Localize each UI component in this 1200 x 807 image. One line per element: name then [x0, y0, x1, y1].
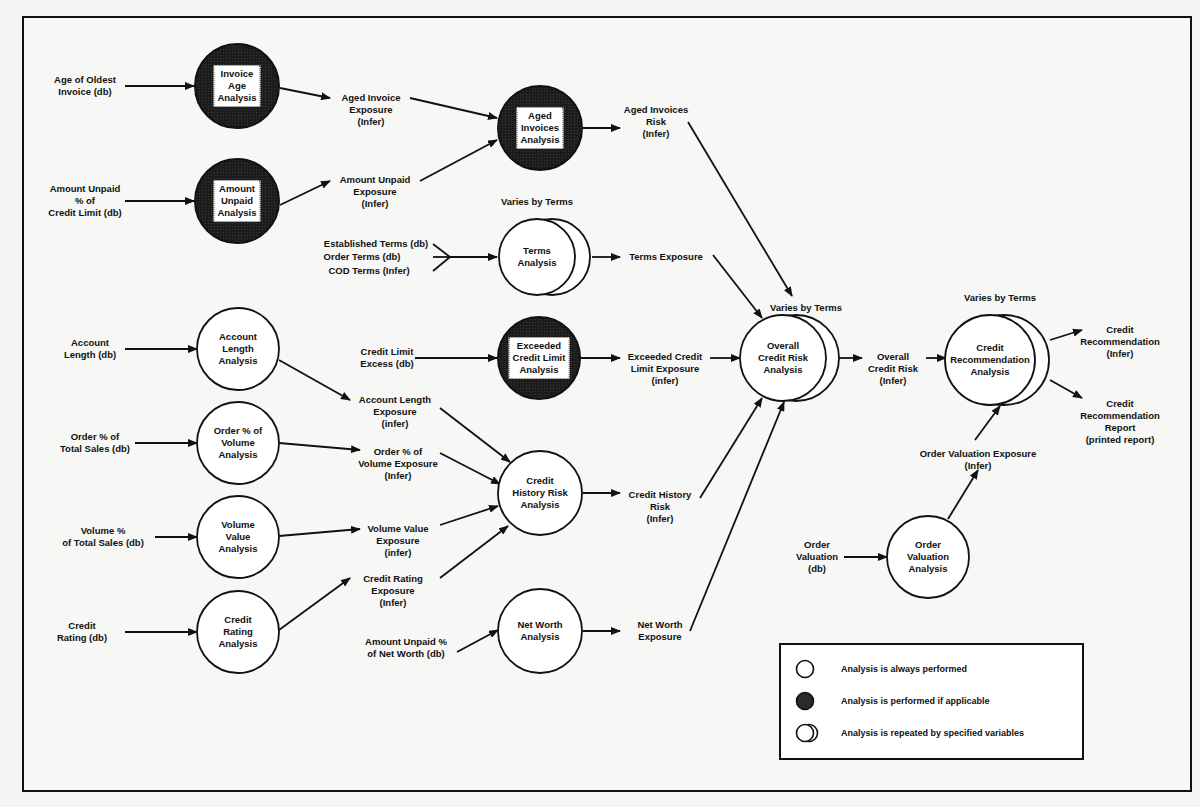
output-order-valuation-exposure: Order Valuation Exposure (Infer): [920, 448, 1037, 472]
double-circle-icon: [795, 723, 825, 743]
node-credit-rating-analysis: Credit Rating Analysis: [218, 614, 257, 650]
node-account-length-analysis: Account Length Analysis: [218, 331, 257, 367]
input-established-terms: Established Terms (db): [324, 238, 428, 250]
output-aged-invoice-exposure: Aged Invoice Exposure (Infer): [341, 92, 400, 128]
output-volume-value-exposure: Volume Value Exposure (infer): [367, 523, 428, 559]
legend-row-always: Analysis is always performed: [795, 659, 967, 679]
input-account-length: Account Length (db): [64, 337, 116, 361]
output-overall-credit-risk: Overall Credit Risk (Infer): [868, 351, 918, 387]
filled-circle-icon: [795, 691, 825, 711]
input-amount-unpaid-pct-net-worth: Amount Unpaid % of Net Worth (db): [365, 636, 447, 660]
input-age-oldest-invoice: Age of Oldest Invoice (db): [54, 74, 116, 98]
legend-always-label: Analysis is always performed: [841, 664, 967, 674]
output-account-length-exposure: Account Length Exposure (infer): [359, 394, 431, 430]
input-credit-limit-excess: Credit Limit Excess (db): [360, 346, 413, 370]
node-credit-recommendation-analysis: Credit Recommendation Analysis: [950, 342, 1030, 378]
recommendation-varies-note: Varies by Terms: [964, 292, 1036, 303]
always-nodes: [197, 308, 969, 673]
node-amount-unpaid-analysis: Amount Unpaid Analysis: [213, 180, 260, 222]
node-order-volume-analysis: Order % of Volume Analysis: [214, 425, 263, 461]
output-order-volume-exposure: Order % of Volume Exposure (Infer): [358, 446, 438, 482]
output-exceeded-credit-limit-exposure: Exceeded Credit Limit Exposure (infer): [628, 351, 702, 387]
legend-conditional-label: Analysis is performed if applicable: [841, 696, 990, 706]
output-amount-unpaid-exposure: Amount Unpaid Exposure (Infer): [340, 174, 411, 210]
input-order-pct-total-sales: Order % of Total Sales (db): [60, 431, 130, 455]
node-credit-history-risk-analysis: Credit History Risk Analysis: [512, 475, 567, 511]
output-credit-recommendation: Credit Recommendation (Infer): [1080, 324, 1160, 360]
input-volume-pct-total-sales: Volume % of Total Sales (db): [62, 525, 144, 549]
overall-varies-note: Varies by Terms: [770, 302, 842, 313]
input-credit-rating: Credit Rating (db): [57, 620, 107, 644]
node-net-worth-analysis: Net Worth Analysis: [517, 619, 562, 643]
output-credit-recommendation-report: Credit Recommendation Report (printed re…: [1080, 398, 1160, 446]
node-overall-credit-risk-analysis: Overall Credit Risk Analysis: [758, 340, 808, 376]
legend-row-conditional: Analysis is performed if applicable: [795, 691, 990, 711]
input-cod-terms: COD Terms (Infer): [328, 265, 409, 277]
legend: Analysis is always performed Analysis is…: [779, 643, 1084, 760]
node-order-valuation-analysis: Order Valuation Analysis: [907, 539, 949, 575]
open-circle-icon: [795, 659, 825, 679]
output-terms-exposure: Terms Exposure: [629, 251, 703, 263]
node-terms-analysis: Terms Analysis: [517, 245, 556, 269]
input-order-terms: Order Terms (db): [324, 251, 401, 263]
input-amount-unpaid-pct-limit: Amount Unpaid % of Credit Limit (db): [48, 183, 121, 219]
node-exceeded-credit-limit-analysis: Exceeded Credit Limit Analysis: [509, 337, 570, 379]
output-credit-history-risk: Credit History Risk (Infer): [629, 489, 692, 525]
terms-varies-note: Varies by Terms: [501, 196, 573, 207]
legend-repeated-label: Analysis is repeated by specified variab…: [841, 728, 1024, 738]
node-aged-invoices-analysis: Aged Invoices Analysis: [516, 107, 563, 149]
output-credit-rating-exposure: Credit Rating Exposure (Infer): [363, 573, 423, 609]
input-order-valuation: Order Valuation (db): [796, 539, 838, 575]
legend-row-repeated: Analysis is repeated by specified variab…: [795, 723, 1024, 743]
node-invoice-age-analysis: Invoice Age Analysis: [213, 65, 260, 107]
output-aged-invoices-risk: Aged Invoices Risk (Infer): [624, 104, 688, 140]
output-net-worth-exposure: Net Worth Exposure: [637, 619, 682, 643]
node-volume-value-analysis: Volume Value Analysis: [218, 519, 257, 555]
